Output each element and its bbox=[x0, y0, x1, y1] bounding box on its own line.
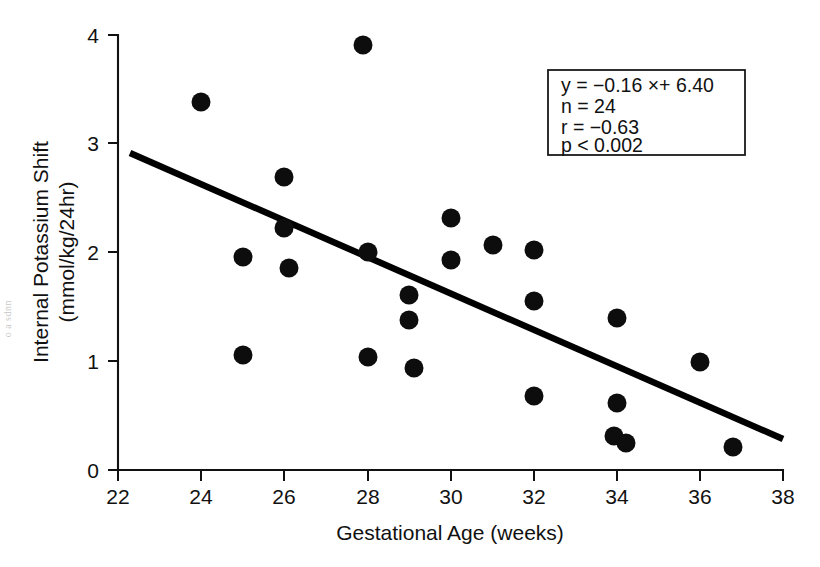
scatter-plot-figure: o a sdnn 4 3 2 1 0 bbox=[0, 0, 820, 567]
data-point bbox=[484, 236, 503, 255]
y-axis-title-line2: (mmol/kg/24hr) bbox=[55, 181, 78, 322]
data-point bbox=[400, 311, 419, 330]
data-point bbox=[691, 353, 710, 372]
data-point bbox=[354, 36, 373, 55]
y-tick-label: 1 bbox=[87, 350, 99, 373]
x-tick-label: 24 bbox=[189, 485, 213, 508]
y-tick-label: 0 bbox=[87, 459, 99, 482]
x-tick-label: 34 bbox=[605, 485, 629, 508]
data-point bbox=[525, 387, 544, 406]
x-tick-label: 38 bbox=[771, 485, 794, 508]
data-point bbox=[280, 259, 299, 278]
legend-pvalue: p < 0.002 bbox=[561, 134, 643, 156]
y-tick-label: 4 bbox=[87, 24, 99, 47]
x-tick-label: 22 bbox=[106, 485, 129, 508]
y-tick-label: 2 bbox=[87, 241, 99, 264]
data-point bbox=[275, 219, 294, 238]
stats-legend-box: y = −0.16 ×+ 6.40 n = 24 r = −0.63 p < 0… bbox=[548, 70, 745, 156]
data-point bbox=[442, 209, 461, 228]
data-point bbox=[442, 251, 461, 270]
data-point bbox=[234, 346, 253, 365]
legend-sample-size: n = 24 bbox=[561, 95, 616, 117]
x-tick-label: 36 bbox=[688, 485, 711, 508]
data-point bbox=[234, 248, 253, 267]
data-point bbox=[400, 286, 419, 305]
data-point bbox=[359, 348, 378, 367]
chart-canvas: 4 3 2 1 0 22 24 26 28 30 32 34 36 38 Ges… bbox=[0, 0, 820, 567]
data-point bbox=[192, 93, 211, 112]
regression-line bbox=[130, 153, 783, 439]
data-point bbox=[359, 243, 378, 262]
y-axis-ticks bbox=[108, 35, 118, 470]
legend-equation: y = −0.16 ×+ 6.40 bbox=[561, 74, 714, 96]
data-point bbox=[617, 434, 636, 453]
x-axis-ticks bbox=[118, 470, 783, 481]
data-point bbox=[525, 292, 544, 311]
data-point bbox=[608, 394, 627, 413]
data-point bbox=[608, 309, 627, 328]
y-axis-title-line1: Internal Potassium Shift bbox=[29, 141, 52, 363]
x-tick-label: 28 bbox=[356, 485, 379, 508]
data-point bbox=[405, 359, 424, 378]
data-point bbox=[724, 438, 743, 457]
x-tick-label: 30 bbox=[439, 485, 462, 508]
x-tick-label: 26 bbox=[272, 485, 295, 508]
y-tick-label: 3 bbox=[87, 132, 99, 155]
x-tick-label: 32 bbox=[522, 485, 545, 508]
x-axis-title: Gestational Age (weeks) bbox=[336, 521, 564, 544]
data-point bbox=[525, 241, 544, 260]
data-point bbox=[275, 168, 294, 187]
